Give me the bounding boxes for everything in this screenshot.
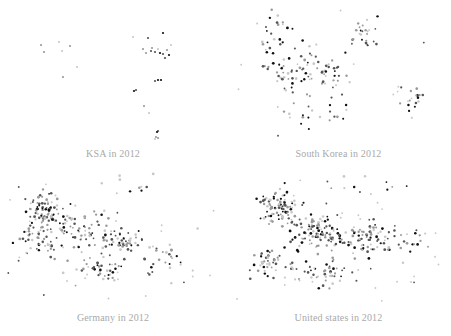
scatter-point — [80, 237, 82, 239]
scatter-point — [48, 219, 50, 221]
scatter-point — [323, 270, 325, 272]
scatter-point — [66, 220, 68, 222]
scatter-point — [38, 237, 40, 239]
scatter-point — [289, 230, 291, 232]
scatter-point — [293, 200, 296, 203]
scatter-point — [387, 246, 390, 249]
scatter-point — [140, 186, 142, 188]
scatter-point — [338, 75, 340, 77]
scatter-point — [345, 104, 347, 106]
scatter-point — [129, 240, 131, 242]
scatter-point — [309, 78, 311, 80]
scatter-point — [259, 264, 261, 266]
scatter-point — [272, 262, 274, 264]
scatter-point — [306, 93, 308, 95]
scatter-point — [332, 238, 334, 240]
scatter-point — [318, 287, 321, 290]
scatter-point — [171, 257, 173, 259]
scatter-point — [375, 28, 377, 30]
scatter-point — [29, 208, 31, 210]
scatter-point — [48, 209, 51, 212]
scatter-point — [78, 227, 80, 229]
scatter-point — [300, 226, 302, 228]
scatter-point — [309, 73, 312, 76]
scatter-point — [63, 233, 65, 235]
scatter-point — [308, 45, 311, 48]
scatter-point — [18, 186, 20, 188]
scatter-point — [339, 237, 341, 239]
scatter-point — [309, 266, 311, 268]
scatter-point — [37, 233, 40, 236]
scatter-point — [39, 194, 42, 197]
scatter-point — [263, 203, 265, 205]
scatter-point — [406, 185, 408, 187]
scatter-point — [324, 83, 326, 85]
scatter-point — [107, 217, 110, 220]
scatter-point — [267, 275, 269, 277]
scatter-point — [280, 67, 283, 70]
scatter-point — [107, 274, 109, 276]
scatter-point — [117, 278, 119, 280]
scatter-point — [123, 258, 126, 261]
scatter-point — [100, 213, 103, 216]
scatter-point — [362, 24, 364, 26]
scatter-point — [304, 237, 306, 239]
scatter-point — [169, 263, 171, 265]
scatter-point — [267, 256, 270, 259]
scatter-point — [87, 266, 89, 268]
scatter-point — [263, 260, 265, 262]
scatter-point — [331, 275, 333, 277]
scatter-point — [326, 232, 328, 234]
scatter-point — [286, 26, 289, 29]
scatter-point — [160, 79, 162, 81]
scatter-point — [310, 54, 312, 56]
scatter-point — [112, 271, 115, 274]
scatter-point — [147, 272, 149, 274]
scatter-point — [125, 240, 127, 242]
scatter-point — [30, 202, 32, 204]
scatter-point — [386, 189, 388, 191]
scatter-point — [40, 229, 42, 231]
scatter-point — [289, 206, 291, 208]
scatter-point — [267, 260, 269, 262]
scatter-point — [341, 238, 343, 240]
scatter-point — [110, 230, 112, 232]
scatter-point — [340, 276, 342, 278]
scatter-point — [301, 116, 304, 119]
scatter-point — [394, 225, 396, 227]
scatter-point — [377, 232, 379, 234]
scatter-point — [47, 243, 49, 245]
scatter-point — [249, 269, 251, 271]
scatter-point — [305, 260, 308, 263]
scatter-point — [298, 245, 300, 247]
scatter-point — [317, 245, 319, 247]
scatter-point — [354, 257, 357, 260]
scatter-point — [284, 277, 286, 279]
scatter-point — [319, 218, 322, 221]
scatter-point — [53, 206, 56, 209]
scatter-point — [108, 298, 110, 300]
scatter-point — [145, 186, 148, 189]
scatter-point — [97, 264, 99, 266]
scatter-point — [129, 237, 132, 240]
scatter-point — [305, 72, 308, 75]
scatter-point — [152, 173, 155, 176]
scatter-point — [387, 238, 389, 240]
scatter-point — [312, 274, 315, 277]
scatter-point — [73, 223, 76, 226]
scatter-point — [41, 221, 43, 223]
scatter-point — [312, 62, 315, 65]
scatter-point — [266, 205, 269, 208]
scatter-point — [291, 219, 293, 221]
scatter-point — [368, 219, 370, 221]
scatter-point — [266, 266, 268, 268]
panel-caption-germany: Germany in 2012 — [0, 312, 226, 323]
scatter-point — [32, 227, 34, 229]
scatter-point — [411, 117, 413, 119]
scatter-point — [400, 234, 402, 236]
scatter-point — [265, 49, 267, 51]
scatter-point — [109, 264, 111, 266]
scatter-point — [388, 231, 390, 233]
scatter-point — [32, 199, 34, 201]
scatter-point — [209, 274, 211, 276]
